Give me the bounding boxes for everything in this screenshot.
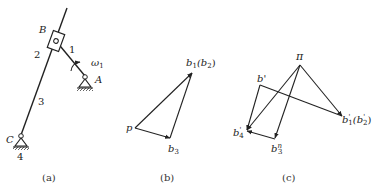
label-pi: π: [295, 50, 304, 63]
label-link-3: 3: [38, 96, 44, 107]
label-bprime: b': [257, 73, 266, 84]
label-b4prime: b'4: [233, 126, 244, 140]
caption-c: (c): [282, 172, 296, 183]
label-b1-b2: b1(b2): [186, 57, 216, 70]
panel-b-velocity-polygon: b1(b2) p b3 (b): [126, 57, 216, 183]
label-b: B: [38, 24, 46, 35]
label-frame-4: 4: [17, 151, 23, 162]
label-a: A: [94, 74, 102, 85]
label-p: p: [126, 122, 133, 133]
vector-b3-b1: [170, 73, 192, 138]
vector-b3n-b4: [247, 131, 275, 139]
diagram-canvas: B 2 1 ω1 A 3 C 4 (a) b1(b2) p b3 (b) π b…: [0, 0, 375, 192]
label-omega: ω1: [91, 57, 104, 70]
vector-p-b1: [135, 73, 192, 128]
label-b3: b3: [168, 143, 179, 156]
panel-c-acceleration-polygon: π b' b'4 bn3 b'1(b'2) (c): [233, 50, 372, 183]
pivot-a-ground: [77, 75, 93, 91]
label-link-1: 1: [69, 44, 75, 55]
label-b1-b2-prime: b'1(b'2): [342, 113, 372, 127]
pivot-c-ground: [13, 134, 29, 150]
caption-b: (b): [160, 172, 174, 183]
vector-pi-b3n: [275, 65, 300, 138]
omega-rotation-arrow: [71, 62, 80, 71]
caption-a: (a): [42, 172, 56, 183]
vector-bprime-b4: [247, 85, 260, 130]
label-b3n: bn3: [271, 142, 282, 156]
label-c: C: [6, 134, 14, 145]
label-link-2: 2: [34, 49, 40, 60]
vector-p-b3: [135, 128, 170, 138]
panel-a-mechanism: B 2 1 ω1 A 3 C 4 (a): [6, 8, 104, 183]
